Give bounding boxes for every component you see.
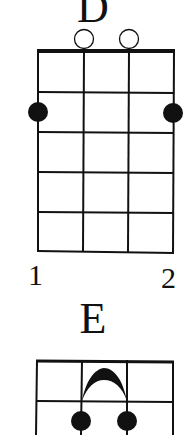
finger-dot xyxy=(163,103,183,123)
string-1 xyxy=(36,360,37,435)
fret-label-2: 2 xyxy=(161,263,176,293)
fret-line xyxy=(38,132,174,133)
fret-label-1: 1 xyxy=(28,260,43,290)
open-string-marker xyxy=(75,30,94,49)
string-2 xyxy=(83,50,84,252)
finger-dot xyxy=(117,411,137,431)
chord-diagrams xyxy=(0,0,186,435)
fret-line xyxy=(37,401,173,402)
finger-dot xyxy=(71,411,91,431)
chord-title-e: E xyxy=(0,297,186,341)
fret-line xyxy=(38,172,174,173)
string-3 xyxy=(128,50,129,252)
fret-line xyxy=(38,92,174,93)
string-4 xyxy=(173,50,174,253)
barre-arc xyxy=(82,368,127,401)
nut xyxy=(36,361,174,362)
fret-line xyxy=(38,212,174,213)
open-string-marker xyxy=(120,30,139,49)
chord-diagram-d xyxy=(28,30,183,254)
finger-dot xyxy=(28,102,48,122)
chord-diagram-e xyxy=(36,360,174,435)
fret-line xyxy=(37,251,174,253)
